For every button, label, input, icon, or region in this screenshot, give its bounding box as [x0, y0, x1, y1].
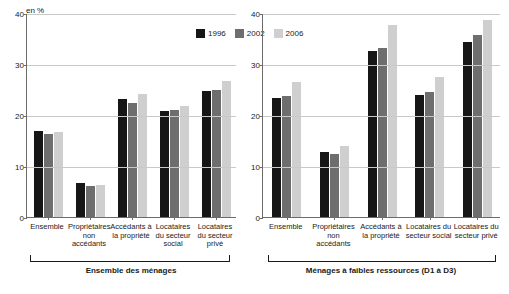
- y-axis-tick-mark: [260, 14, 263, 15]
- bar: [473, 35, 482, 217]
- y-axis-tick-mark: [260, 116, 263, 117]
- gridline: [263, 116, 500, 117]
- y-axis-tick-mark: [260, 218, 263, 219]
- x-axis-tick-mark: [48, 217, 49, 220]
- bar: [463, 42, 472, 217]
- bar: [212, 90, 221, 217]
- bar: [415, 95, 424, 217]
- bar: [202, 91, 211, 217]
- bar: [388, 25, 397, 217]
- x-axis-tick-mark: [477, 217, 478, 220]
- bar: [368, 51, 377, 217]
- x-axis-tick-mark: [430, 217, 431, 220]
- x-axis-category-label: Accédants à la propriété: [357, 223, 405, 240]
- gridline: [27, 167, 236, 168]
- y-axis-tick-mark: [24, 65, 27, 66]
- gridline: [263, 167, 500, 168]
- bar: [170, 110, 179, 217]
- x-axis-tick-mark: [382, 217, 383, 220]
- bar: [160, 111, 169, 217]
- bar: [222, 81, 231, 217]
- panel-footer-left: Ensemble des ménages: [26, 266, 236, 275]
- gridline: [27, 116, 236, 117]
- y-axis-tick-label: 10: [15, 163, 24, 172]
- bar: [292, 82, 301, 217]
- y-axis-tick-label: 40: [15, 10, 24, 19]
- bar: [76, 183, 85, 217]
- x-axis-tick-mark: [216, 217, 217, 220]
- bar: [282, 96, 291, 217]
- x-axis-category-label: Propriétaires non accédants: [310, 223, 358, 249]
- bar: [128, 103, 137, 217]
- bar: [44, 134, 53, 217]
- legend-swatch-icon-2002: [235, 29, 244, 38]
- bar: [34, 131, 43, 217]
- gridline: [263, 14, 500, 15]
- x-axis-tick-mark: [287, 217, 288, 220]
- x-axis-category-label: Locataires du secteur privé: [452, 223, 500, 240]
- y-axis-tick-label: 20: [15, 112, 24, 121]
- bar: [483, 20, 492, 217]
- x-axis-category-label: Locataires du secteur social: [152, 223, 194, 249]
- chart-figure: en % 1996 2002 2006 010203040 EnsemblePr…: [0, 0, 509, 294]
- gridline: [263, 65, 500, 66]
- bar: [330, 154, 339, 217]
- y-axis-tick-label: 20: [251, 112, 260, 121]
- bar: [180, 106, 189, 217]
- y-axis-tick-label: 10: [251, 163, 260, 172]
- y-axis-tick-label: 40: [251, 10, 260, 19]
- brace-left: [30, 255, 230, 262]
- brace-right: [268, 255, 496, 262]
- x-axis-category-label: Ensemble: [262, 223, 310, 232]
- plot-area-left: 010203040: [26, 14, 236, 218]
- gridline: [27, 14, 236, 15]
- x-axis-tick-mark: [174, 217, 175, 220]
- y-axis-tick-label: 30: [251, 61, 260, 70]
- y-axis-tick-mark: [24, 14, 27, 15]
- x-axis-category-label: Accédants à la propriété: [110, 223, 152, 240]
- x-axis-tick-mark: [132, 217, 133, 220]
- y-axis-tick-label: 30: [15, 61, 24, 70]
- bar: [96, 185, 105, 217]
- x-axis-category-label: Locataires du secteur privé: [194, 223, 236, 249]
- plot-area-right: 010203040: [262, 14, 500, 218]
- bar: [86, 186, 95, 217]
- y-axis-tick-mark: [260, 167, 263, 168]
- bar: [340, 146, 349, 217]
- y-axis-tick-mark: [24, 167, 27, 168]
- y-axis-tick-mark: [260, 65, 263, 66]
- x-axis-category-label: Ensemble: [26, 223, 68, 232]
- legend-item-2002: 2002: [235, 29, 265, 38]
- bar: [320, 152, 329, 217]
- panel-footer-right: Ménages à faibles ressources (D1 à D3): [262, 266, 500, 275]
- y-axis-tick-mark: [24, 116, 27, 117]
- bar: [378, 48, 387, 217]
- bar: [425, 92, 434, 217]
- x-axis-tick-mark: [334, 217, 335, 220]
- gridline: [27, 65, 236, 66]
- y-axis-tick-mark: [24, 218, 27, 219]
- x-axis-category-label: Locataires du secteur social: [405, 223, 453, 240]
- bar: [54, 132, 63, 217]
- x-axis-category-label: Propriétaires non accédants: [68, 223, 110, 249]
- y-axis-tick-label: 0: [256, 214, 260, 223]
- bar: [138, 94, 147, 217]
- bar: [435, 77, 444, 217]
- x-axis-tick-mark: [90, 217, 91, 220]
- y-axis-tick-label: 0: [20, 214, 24, 223]
